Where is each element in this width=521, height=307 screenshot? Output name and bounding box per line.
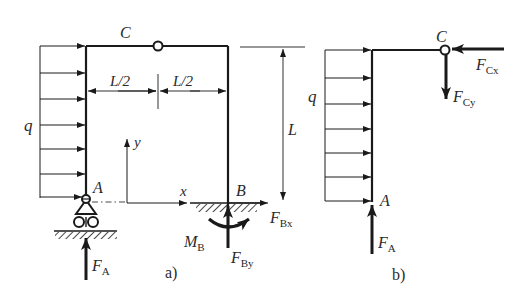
distributed-load-q bbox=[40, 46, 85, 198]
figure-a: q C L/2 L/2 L bbox=[24, 24, 305, 282]
frame-b bbox=[372, 50, 440, 202]
force-label-fby: FBy bbox=[230, 249, 254, 269]
force-label-fa: FA bbox=[91, 257, 110, 277]
force-label-fcy: FCy bbox=[452, 88, 476, 108]
figure-b: q C FCx FCy A FA b) bbox=[308, 28, 504, 284]
axis-label-y: y bbox=[132, 134, 141, 150]
axis-label-x: x bbox=[179, 183, 187, 199]
support-label-b: B bbox=[236, 182, 246, 199]
dimension-l-half bbox=[88, 74, 226, 109]
statics-diagram: q C L/2 L/2 L bbox=[0, 0, 521, 307]
support-label-a: A bbox=[92, 179, 103, 196]
ground-hatch-a bbox=[55, 232, 117, 239]
load-label-q-b: q bbox=[308, 87, 317, 106]
moment-label-mb: MB bbox=[183, 233, 205, 253]
dim-label-l-half-right: L/2 bbox=[172, 73, 194, 89]
point-label-a-b: A bbox=[379, 192, 390, 209]
force-label-fa-b: FA bbox=[377, 234, 396, 254]
caption-a: a) bbox=[165, 264, 177, 282]
force-label-fbx: FBx bbox=[269, 209, 293, 229]
roller-support-a-icon bbox=[54, 195, 117, 231]
force-label-fcx: FCx bbox=[475, 56, 499, 76]
load-label-q: q bbox=[24, 116, 33, 135]
hinge-label-c-b: C bbox=[436, 28, 447, 45]
hinge-label-c: C bbox=[120, 24, 131, 41]
dim-label-l: L bbox=[287, 121, 297, 138]
hinge-c-icon bbox=[154, 42, 163, 51]
hinge-c-b-icon bbox=[441, 46, 450, 55]
distributed-load-q-b bbox=[325, 50, 371, 201]
caption-b: b) bbox=[392, 266, 405, 284]
dim-label-l-half-left: L/2 bbox=[109, 73, 131, 89]
